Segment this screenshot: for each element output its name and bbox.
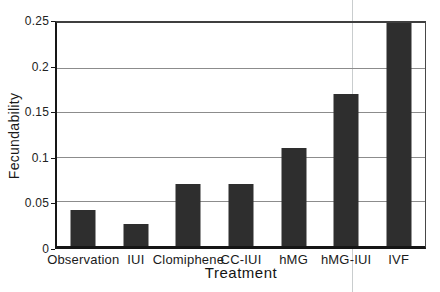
y-tick-mark-0 (51, 249, 55, 250)
bar-iui (123, 224, 148, 246)
bar-observation (71, 210, 96, 246)
bar-ivf (386, 23, 411, 246)
y-tick-label-0.2: 0.2 (32, 60, 49, 74)
bar-cc-iui (229, 184, 254, 246)
bar-hmg (281, 148, 306, 246)
gridline-0.1 (57, 157, 425, 158)
y-tick-label-0.25: 0.25 (25, 14, 49, 28)
bar-hmg-iui (334, 94, 359, 246)
y-tick-label-0.15: 0.15 (25, 105, 49, 119)
bar-clomiphene (176, 184, 201, 246)
y-tick-label-0.05: 0.05 (25, 196, 49, 210)
plot-area (55, 21, 426, 249)
x-axis-title: Treatment (57, 264, 425, 281)
bar-chart-figure: Fecundability 00.050.10.150.20.25 Observ… (0, 0, 440, 292)
gridline-0.2 (57, 68, 425, 69)
y-tick-label-0.1: 0.1 (32, 151, 49, 165)
y-axis: 00.050.10.150.20.25 (0, 21, 55, 249)
gridline-0.15 (57, 112, 425, 113)
plot-inner (57, 23, 425, 246)
